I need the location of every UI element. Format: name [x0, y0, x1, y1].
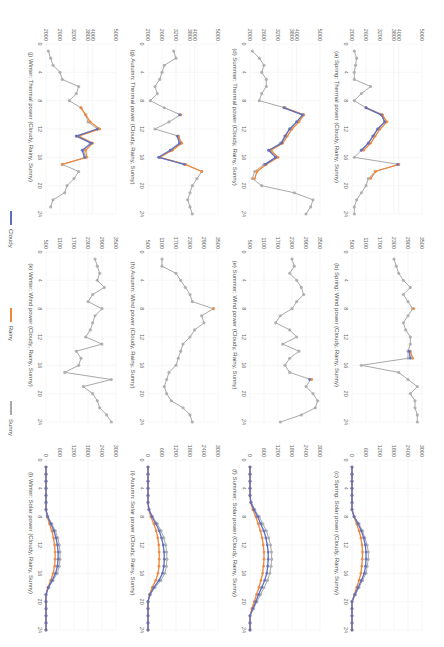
data-point: [155, 529, 158, 532]
data-point: [165, 550, 168, 553]
data-point: [409, 335, 412, 338]
data-point: [353, 49, 356, 52]
data-point: [45, 622, 48, 625]
data-point: [75, 92, 78, 95]
xtick-label: 20: [343, 391, 349, 397]
data-point: [361, 558, 364, 561]
ytick-label: 500: [247, 240, 253, 249]
data-point: [188, 191, 191, 194]
data-point: [188, 205, 191, 208]
xtick-label: 8: [139, 99, 145, 102]
xtick-label: 0: [241, 250, 247, 253]
data-point: [80, 106, 83, 109]
ytick-label: 3500: [317, 237, 323, 249]
data-point: [288, 357, 291, 360]
data-point: [162, 544, 165, 547]
xtick-label: 20: [139, 183, 145, 189]
data-point: [351, 508, 354, 511]
ytick-label: 4000: [90, 29, 96, 41]
data-point: [353, 212, 356, 215]
chart-panel-f: 0600120018002400300004812162024(f) Summe…: [224, 436, 322, 630]
xtick-label: 12: [139, 126, 145, 132]
data-point: [288, 371, 291, 374]
xtick-label: 8: [139, 307, 145, 310]
data-point: [55, 537, 58, 540]
xtick-label: 12: [139, 542, 145, 548]
data-point: [301, 113, 304, 116]
series-rainy: [250, 467, 264, 630]
data-point: [54, 572, 57, 575]
ytick-label: 1700: [275, 237, 281, 249]
data-point: [110, 420, 113, 423]
ytick-label: 4000: [192, 29, 198, 41]
data-point: [262, 544, 265, 547]
xtick-label: 4: [241, 487, 247, 490]
data-point: [149, 99, 152, 102]
data-point: [260, 184, 263, 187]
data-point: [177, 357, 180, 360]
data-point: [266, 579, 269, 582]
data-point: [263, 551, 266, 554]
data-point: [259, 522, 262, 525]
data-point: [52, 537, 55, 540]
xtick-label: 24: [37, 211, 43, 217]
series-cloudy: [46, 467, 58, 630]
data-point: [100, 342, 103, 345]
data-point: [364, 184, 367, 187]
data-point: [409, 392, 412, 395]
data-point: [84, 149, 87, 152]
ytick-label: 1100: [57, 237, 63, 249]
data-point: [359, 572, 362, 575]
data-point: [249, 480, 252, 483]
data-point: [351, 466, 354, 469]
chart-panel-h: 5001100170023002900350004812162024(h) Au…: [122, 228, 220, 422]
data-point: [93, 314, 96, 317]
ytick-label: 1200: [377, 445, 383, 457]
legend-item-rainy: Rainy: [8, 308, 14, 341]
data-point: [263, 579, 266, 582]
data-point: [147, 494, 150, 497]
legend-item-cloudy: Cloudy: [8, 211, 14, 248]
data-point: [402, 293, 405, 296]
ytick-label: 2400: [303, 445, 309, 457]
data-point: [353, 99, 356, 102]
data-point: [53, 565, 56, 568]
data-point: [351, 600, 354, 603]
chart-panel-a: 20002600320038004000500004812162024(a) S…: [326, 20, 424, 214]
data-point: [361, 551, 364, 554]
data-point: [376, 128, 379, 131]
xtick-label: 8: [37, 307, 43, 310]
data-point: [251, 607, 254, 610]
data-point: [83, 156, 86, 159]
chart-panel-l: 0600120018002400300004812162024(l) Winte…: [20, 436, 118, 630]
xtick-label: 8: [37, 515, 43, 518]
series-sunny: [162, 259, 213, 422]
data-point: [147, 614, 150, 617]
data-point: [351, 629, 354, 632]
data-point: [89, 121, 92, 124]
panel-caption: (l) Winter: Solar power (Cloudy, Rainy, …: [28, 436, 34, 630]
xtick-label: 4: [343, 487, 349, 490]
data-point: [300, 413, 303, 416]
data-point: [105, 413, 108, 416]
data-point: [260, 92, 263, 95]
data-point: [165, 392, 168, 395]
data-point: [295, 300, 298, 303]
ytick-label: 2600: [57, 29, 63, 41]
data-point: [311, 198, 314, 201]
data-point: [188, 335, 191, 338]
xtick-label: 16: [37, 362, 43, 368]
data-point: [360, 92, 363, 95]
data-point: [265, 529, 268, 532]
panel-caption: (b) Spring: Wind power (Cloudy, Rainy, S…: [334, 228, 340, 422]
ytick-label: 2300: [85, 237, 91, 249]
xtick-label: 24: [343, 211, 349, 217]
ytick-label: 0: [247, 454, 253, 457]
data-point: [274, 321, 277, 324]
data-point: [152, 586, 155, 589]
series-rainy: [62, 108, 99, 165]
data-point: [51, 198, 54, 201]
xtick-label: 12: [37, 542, 43, 548]
data-point: [98, 272, 101, 275]
data-point: [353, 205, 356, 208]
